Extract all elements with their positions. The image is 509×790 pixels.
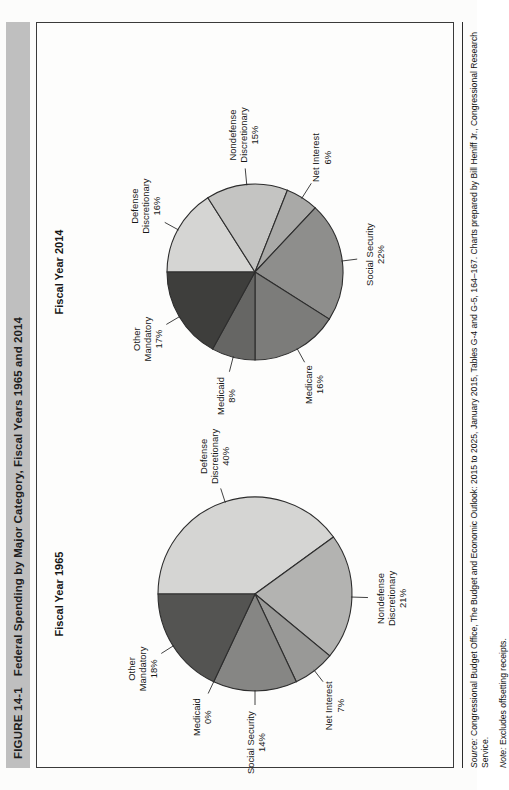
note-line: Note: Excludes offsetting receipts.	[498, 22, 509, 768]
leader-line	[165, 222, 179, 230]
pie-label-nondefense-discretionary-2014: Nondefense Discretionary 15%	[227, 107, 261, 162]
pie-canvas-fy1965	[105, 444, 405, 744]
pie-label-other-mandatory-1965: Other Mandatory 18%	[126, 647, 160, 692]
leader-line	[245, 168, 247, 185]
figure-number: FIGURE 14-1	[12, 687, 24, 759]
pie-svg-fy2014	[105, 122, 405, 422]
leader-line	[351, 597, 368, 598]
pie-label-social-security-1965: Social Security 14%	[245, 711, 267, 774]
pie-canvas-fy2014	[105, 122, 405, 422]
source-text: Congressional Budget Office, The Budget …	[469, 32, 490, 768]
pie-label-medicaid-1965: Medicaid 0%	[191, 698, 213, 736]
pie-label-net-interest-2014: Net Interest 6%	[310, 133, 332, 182]
pie-label-other-mandatory-2014: Other Mandatory 17%	[131, 317, 165, 362]
pie-label-net-interest-1965: Net Interest 7%	[323, 681, 345, 730]
leader-line	[314, 670, 323, 682]
leader-line	[341, 259, 357, 261]
source-label: Source:	[469, 738, 479, 768]
leader-line	[208, 681, 214, 694]
pie-chart-fy2014: Fiscal Year 2014 Defense Discretionary 1…	[37, 107, 453, 437]
note-text: Excludes offsetting receipts.	[498, 638, 508, 747]
note-label: Note:	[498, 747, 508, 768]
source-line: Source: Congressional Budget Office, The…	[469, 22, 491, 768]
pie-chart-fy1965: Fiscal Year 1965 Defense Discretionary 4…	[37, 429, 453, 759]
figure-header: FIGURE 14-1 Federal Spending by Major Ca…	[6, 22, 30, 768]
leader-line	[297, 348, 305, 362]
chart-title-fy2014: Fiscal Year 2014	[53, 107, 65, 437]
leader-line	[302, 183, 312, 198]
pie-svg-fy1965	[105, 444, 405, 744]
figure-footnotes: Source: Congressional Budget Office, The…	[462, 22, 509, 768]
leader-line	[161, 645, 174, 653]
pie-label-medicaid-2014: Medicaid 8%	[215, 377, 237, 415]
pie-label-defense-discretionary-1965: Defense Discretionary 40%	[198, 429, 232, 484]
leader-line	[166, 316, 180, 324]
pie-label-defense-discretionary-2014: Defense Discretionary 16%	[129, 178, 163, 233]
pie-label-social-security-2014: Social Security 22%	[364, 223, 386, 286]
pie-label-medicare-2014: Medicare 16%	[303, 365, 325, 404]
footnote-separator	[462, 22, 463, 768]
figure-title: Federal Spending by Major Category, Fisc…	[12, 317, 24, 676]
leader-line	[221, 488, 226, 502]
pie-label-nondefense-discretionary-1965: Nondefense Discretionary 21%	[375, 571, 409, 626]
chart-title-fy1965: Fiscal Year 1965	[53, 429, 65, 759]
figure-panel: Fiscal Year 1965 Defense Discretionary 4…	[36, 22, 454, 768]
leader-line	[229, 356, 233, 371]
